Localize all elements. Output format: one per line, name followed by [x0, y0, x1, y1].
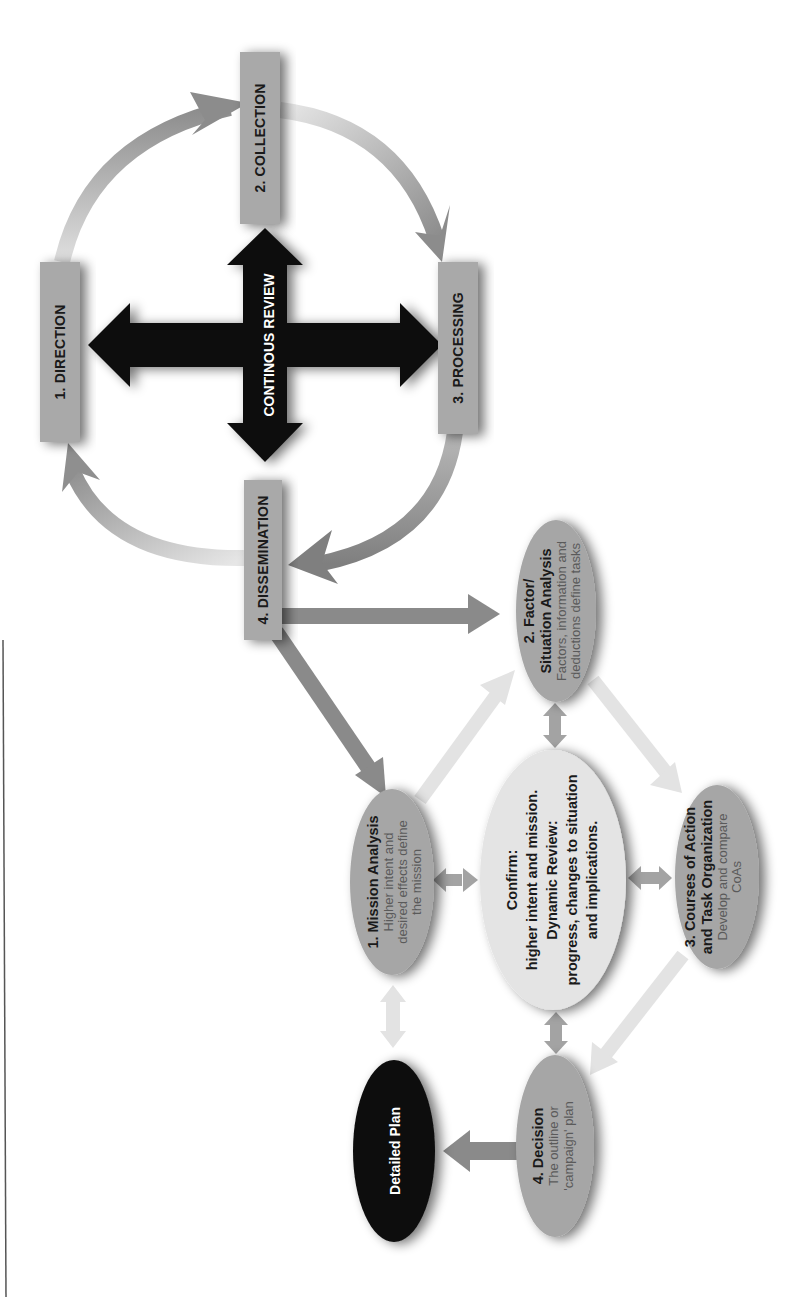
- step-box-collection: 2. COLLECTION: [240, 52, 280, 224]
- arrow-factor-to-courses: [593, 680, 682, 793]
- center-line-1: Confirm:: [504, 850, 520, 910]
- ellipse-mission-analysis: 1. Mission Analysis Higher intent and de…: [350, 789, 434, 975]
- factor-title-1: 2. Factor/: [521, 579, 537, 643]
- arrow-dissemination-to-factor: [280, 594, 500, 634]
- factor-sub-2: deductions define tasks: [568, 543, 583, 679]
- cross-label: CONTINOUS REVIEW: [261, 273, 277, 417]
- center-line-3: Dynamic Review:: [544, 820, 560, 939]
- step-box-direction: 1. DIRECTION: [40, 262, 80, 442]
- arc-dissemination-to-direction: [62, 443, 244, 558]
- mission-sub-1: Higher intent and: [381, 832, 396, 931]
- arrow-courses-center: [628, 866, 672, 890]
- factor-sub-1: Factors, information and: [554, 541, 569, 681]
- mission-title: 1. Mission Analysis: [365, 815, 381, 948]
- step-label-processing: 3. PROCESSING: [450, 292, 466, 404]
- ellipse-courses-of-action: 3. Courses of Action and Task Organizati…: [675, 785, 759, 969]
- courses-title-1: 3. Courses of Action: [682, 807, 698, 947]
- page-edge-line: [3, 640, 6, 1297]
- ellipse-detailed-plan: Detailed Plan: [353, 1060, 435, 1242]
- step-label-direction: 1. DIRECTION: [52, 305, 68, 400]
- step-box-dissemination: 4. DISSEMINATION: [244, 480, 282, 640]
- arrow-decision-center: [544, 1012, 568, 1054]
- detailed-plan-label: Detailed Plan: [387, 1107, 403, 1195]
- mission-sub-3: the mission: [409, 849, 424, 915]
- intelligence-planning-diagram: CONTINOUS REVIEW 1. DIRECTION 2. COLLECT…: [0, 0, 794, 1297]
- factor-title-2: Situation Analysis: [538, 548, 554, 673]
- arc-processing-to-dissemination: [288, 432, 455, 584]
- arrow-mission-center: [433, 868, 478, 892]
- decision-sub-2: 'campaign' plan: [561, 1101, 576, 1191]
- courses-title-2: and Task Organization: [699, 800, 715, 954]
- step-label-collection: 2. COLLECTION: [252, 83, 268, 192]
- decision-sub-1: The outline or: [546, 1106, 561, 1186]
- step-label-dissemination: 4. DISSEMINATION: [255, 496, 271, 625]
- arrow-dissemination-to-mission: [276, 632, 386, 797]
- arrow-factor-center: [543, 703, 567, 748]
- courses-sub-2: CoAs: [729, 861, 744, 893]
- arrow-decision-to-detailed-plan: [443, 1130, 517, 1172]
- center-line-5: and implications.: [584, 821, 600, 939]
- arc-direction-to-collection: [62, 92, 248, 262]
- center-line-2: higher intent and mission.: [524, 790, 540, 970]
- decision-title: 4. Decision: [530, 1108, 546, 1185]
- ellipse-decision: 4. Decision The outline or 'campaign' pl…: [516, 1055, 594, 1237]
- ellipse-factor-situation: 2. Factor/ Situation Analysis Factors, i…: [516, 520, 596, 702]
- center-line-4: progress, changes to situation: [564, 774, 580, 985]
- mission-sub-2: desired effects define: [395, 820, 410, 943]
- ellipse-center-review: Confirm: higher intent and mission. Dyna…: [480, 750, 626, 1010]
- step-box-processing: 3. PROCESSING: [438, 262, 478, 434]
- courses-sub-1: Develop and compare: [715, 813, 730, 940]
- arrow-mission-detailed-plan: [380, 985, 406, 1048]
- arc-collection-to-processing: [280, 110, 450, 262]
- arrow-mission-to-factor: [420, 670, 515, 800]
